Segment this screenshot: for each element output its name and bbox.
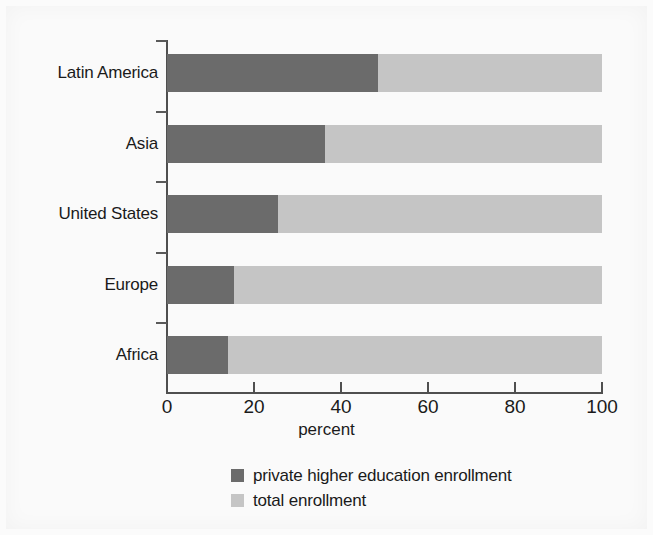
legend-item: total enrollment (231, 488, 512, 513)
y-axis-tick (156, 322, 167, 324)
chart-figure: Latin AmericaAsiaUnited StatesEuropeAfri… (0, 0, 653, 535)
x-axis-tick (340, 382, 342, 393)
bar-segment-total (228, 336, 602, 374)
x-axis-tick-label: 0 (137, 396, 197, 418)
bar-segment-total (278, 195, 602, 233)
category-label-africa: Africa (8, 345, 158, 365)
bar-segment-private (167, 336, 228, 374)
legend-item: private higher education enrollment (231, 463, 512, 488)
y-axis-tick (156, 40, 167, 42)
legend-label: total enrollment (253, 491, 366, 511)
bar-segment-total (325, 125, 602, 163)
category-label-asia: Asia (8, 134, 158, 154)
legend-label: private higher education enrollment (253, 466, 512, 486)
x-axis-tick (601, 382, 603, 393)
bar-segment-private (167, 195, 278, 233)
x-axis-tick-label: 40 (311, 396, 371, 418)
x-axis-tick (166, 382, 168, 393)
x-axis-line (166, 392, 603, 394)
x-axis-tick-label: 60 (398, 396, 458, 418)
x-axis-tick (427, 382, 429, 393)
category-label-united-states: United States (8, 204, 158, 224)
bar-segment-private (167, 266, 234, 304)
x-axis-tick-label: 80 (485, 396, 545, 418)
category-label-europe: Europe (8, 275, 158, 295)
x-axis-tick-label: 100 (572, 396, 632, 418)
bar-segment-private (167, 125, 325, 163)
x-axis-tick (514, 382, 516, 393)
y-axis-tick (156, 181, 167, 183)
bar-segment-total (234, 266, 602, 304)
bar-segment-total (378, 54, 602, 92)
legend-swatch-icon (231, 494, 244, 507)
category-label-latin-america: Latin America (8, 63, 158, 83)
y-axis-tick (156, 111, 167, 113)
bar-segment-private (167, 54, 378, 92)
x-axis-title: percent (0, 420, 653, 440)
x-axis-tick (253, 382, 255, 393)
chart-legend: private higher education enrollmenttotal… (231, 463, 512, 513)
legend-swatch-icon (231, 469, 244, 482)
x-axis-tick-label: 20 (224, 396, 284, 418)
y-axis-tick (156, 252, 167, 254)
